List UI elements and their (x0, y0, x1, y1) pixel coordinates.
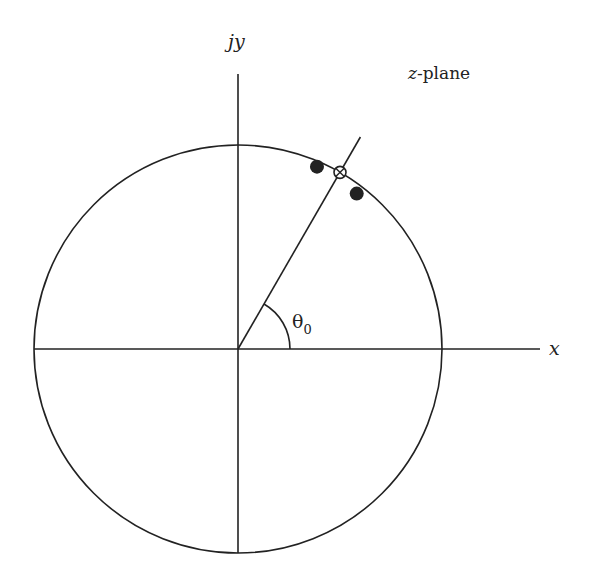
angle-label: θ0 (292, 310, 312, 337)
angle-arc (264, 304, 290, 349)
pole-marker (350, 187, 364, 201)
pole-marker (310, 160, 324, 174)
y-axis-label: jy (224, 30, 245, 52)
z-plane-diagram: jy x z-plane θ0 (0, 0, 589, 583)
x-axis-label: x (549, 337, 560, 359)
plane-label: z-plane (407, 63, 470, 83)
zero-marker (334, 166, 346, 178)
